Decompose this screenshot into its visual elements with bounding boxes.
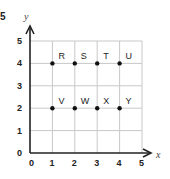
y-axis-label: y <box>23 11 29 22</box>
point-marker <box>117 61 121 65</box>
y-tick-label: 2 <box>17 103 22 113</box>
axes <box>26 26 151 157</box>
x-axis-label: x <box>155 149 161 160</box>
x-tick-label: 0 <box>29 158 34 168</box>
question-number: 5 <box>0 11 6 22</box>
x-tick-label: 5 <box>139 158 144 168</box>
y-tick-label: 1 <box>17 126 22 136</box>
point-label: S <box>81 51 87 61</box>
y-tick-label: 3 <box>17 81 22 91</box>
coordinate-plane: 5 012345012345 RSTUVWXY y x <box>0 0 170 179</box>
y-tick-label: 4 <box>17 58 22 68</box>
point-marker <box>117 106 121 110</box>
point-label: V <box>58 96 64 106</box>
point-marker <box>73 106 77 110</box>
x-tick-label: 2 <box>72 158 77 168</box>
point-label: T <box>103 51 109 61</box>
point-marker <box>95 106 99 110</box>
point-marker <box>95 61 99 65</box>
point-marker <box>73 61 77 65</box>
x-tick-label: 1 <box>49 158 54 168</box>
point-marker <box>50 61 54 65</box>
point-marker <box>50 106 54 110</box>
point-label: Y <box>126 96 132 106</box>
point-label: R <box>58 51 65 61</box>
point-label: W <box>81 96 90 106</box>
y-tick-label: 0 <box>17 148 22 158</box>
point-label: X <box>103 96 109 106</box>
x-tick-label: 4 <box>117 158 122 168</box>
y-tick-label: 5 <box>17 36 22 46</box>
point-label: U <box>126 51 133 61</box>
x-tick-label: 3 <box>94 158 99 168</box>
